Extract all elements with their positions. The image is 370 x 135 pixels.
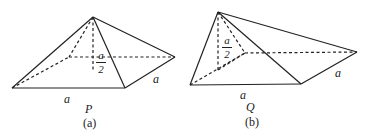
height-label-q: a 2 [222,35,232,60]
pyramid-diagrams [0,0,370,135]
pyramid-p [12,17,175,88]
solid-label-q: Q [246,101,255,113]
side-edge-label-p: a [153,73,159,85]
height-label-p: a 2 [96,50,106,75]
caption-a: (a) [83,117,96,129]
height-denominator: 2 [98,63,104,75]
height-numerator: a [224,34,230,46]
solid-label-p: P [85,103,92,115]
base-edge-label-p: a [64,93,70,105]
caption-b: (b) [245,116,259,128]
height-denominator: 2 [224,48,230,60]
height-numerator: a [98,49,104,61]
side-edge-label-q: a [335,67,341,79]
pyramid-q [190,12,357,85]
